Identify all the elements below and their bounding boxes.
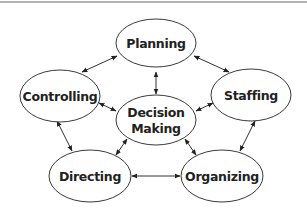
edge-staffing-decision	[196, 103, 213, 111]
node-label: Staffing	[224, 88, 278, 103]
node-staffing: Staffing	[211, 69, 291, 121]
node-label-line2: Making	[131, 121, 181, 136]
node-planning: Planning	[116, 19, 196, 67]
node-controlling: Controlling	[20, 70, 100, 122]
node-label-line1: Decision	[127, 105, 184, 120]
node-label: Controlling	[23, 89, 98, 104]
edge-controlling-directing	[57, 121, 72, 151]
node-label: Directing	[59, 169, 121, 184]
edge-staffing-organizing	[240, 121, 255, 151]
node-directing: Directing	[49, 150, 131, 202]
edge-controlling-planning	[82, 56, 117, 72]
edge-decision-organizing	[185, 139, 196, 155]
edge-controlling-decision	[99, 103, 116, 111]
node-organizing: Organizing	[181, 150, 263, 202]
edge-planning-staffing	[194, 56, 229, 72]
node-label: Organizing	[185, 169, 259, 184]
node-label: Planning	[126, 36, 185, 51]
management-functions-diagram: Planning Controlling Staffing Decision M…	[0, 0, 307, 213]
edge-decision-directing	[116, 139, 127, 155]
node-decision-making: Decision Making	[116, 95, 196, 145]
